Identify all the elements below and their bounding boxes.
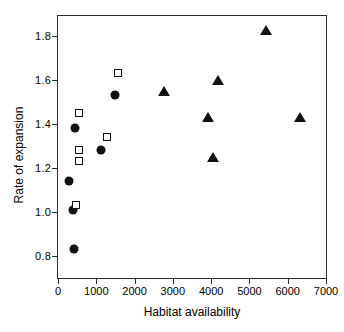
y-axis-tick-label: 1.2 xyxy=(35,162,51,174)
data-point-triangle xyxy=(294,112,306,122)
y-axis-tick xyxy=(52,212,58,213)
x-axis-title: Habitat availability xyxy=(57,305,327,319)
x-axis-tick-label: 7000 xyxy=(314,285,338,297)
x-axis-tick-label: 2000 xyxy=(122,285,146,297)
x-axis-tick xyxy=(288,278,289,284)
data-point-triangle xyxy=(260,25,272,35)
data-point-triangle xyxy=(202,112,214,122)
y-axis-tick xyxy=(52,80,58,81)
y-axis-tick-label: 0.8 xyxy=(35,250,51,262)
x-axis-tick-label: 4000 xyxy=(199,285,223,297)
data-point-circle xyxy=(70,124,79,133)
data-point-circle xyxy=(111,91,120,100)
y-axis-tick-label: 1.0 xyxy=(35,206,51,218)
x-axis-tick-label: 1000 xyxy=(84,285,108,297)
x-axis-tick xyxy=(211,278,212,284)
plot-area: 0.81.01.21.41.61.80100020003000400050006… xyxy=(57,15,327,279)
data-point-square xyxy=(103,133,111,141)
y-axis-tick xyxy=(52,124,58,125)
data-point-square xyxy=(75,157,83,165)
data-point-square xyxy=(75,146,83,154)
y-axis-tick xyxy=(52,36,58,37)
x-axis-tick-label: 5000 xyxy=(237,285,261,297)
x-axis-tick xyxy=(326,278,327,284)
x-axis-tick-label: 0 xyxy=(55,285,61,297)
y-axis-tick-label: 1.6 xyxy=(35,74,51,86)
y-axis-tick-label: 1.8 xyxy=(35,30,51,42)
scatter-chart-figure: 0.81.01.21.41.61.80100020003000400050006… xyxy=(0,0,344,332)
data-point-triangle xyxy=(207,152,219,162)
x-axis-tick xyxy=(58,278,59,284)
x-axis-tick xyxy=(135,278,136,284)
x-axis-tick xyxy=(249,278,250,284)
y-axis-title: Rate of expansion xyxy=(12,80,26,230)
x-axis-tick xyxy=(173,278,174,284)
data-point-square xyxy=(75,109,83,117)
y-axis-tick xyxy=(52,168,58,169)
data-point-triangle xyxy=(158,86,170,96)
data-point-square xyxy=(114,69,122,77)
data-point-circle xyxy=(65,177,74,186)
data-point-square xyxy=(72,201,80,209)
data-point-circle xyxy=(70,245,79,254)
y-axis-tick-label: 1.4 xyxy=(35,118,51,130)
x-axis-tick-label: 3000 xyxy=(161,285,185,297)
y-axis-tick xyxy=(52,256,58,257)
data-point-triangle xyxy=(212,75,224,85)
x-axis-tick-label: 6000 xyxy=(275,285,299,297)
data-point-circle xyxy=(97,146,106,155)
x-axis-tick xyxy=(96,278,97,284)
